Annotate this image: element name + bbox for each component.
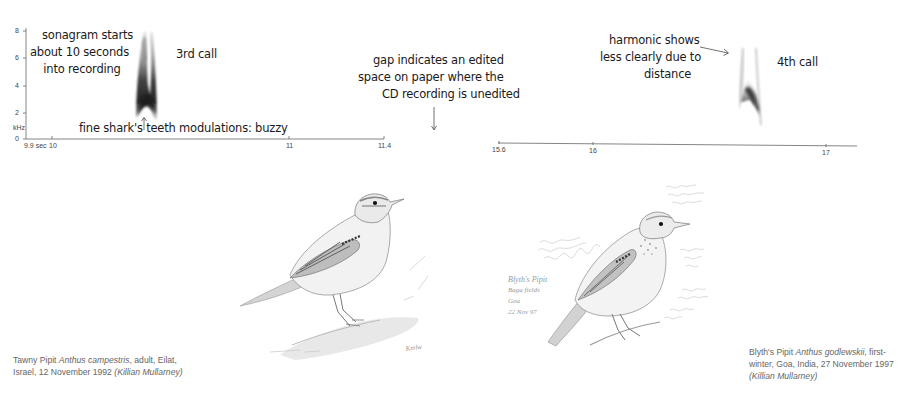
latin-name: Anthus godlewskii xyxy=(796,347,865,357)
illustrator-credit: (Killian Mullarney) xyxy=(749,371,817,381)
caption-line-3: (Killian Mullarney) xyxy=(749,370,906,382)
tawny-pipit-caption: Tawny Pipit Anthus campestris, adult, Ei… xyxy=(13,354,213,378)
illustrator-credit: (Killian Mullarney) xyxy=(114,367,182,377)
caption-line-2: winter, Goa, India, 27 November 1997 xyxy=(749,358,906,370)
latin-name: Anthus campestris xyxy=(59,355,130,365)
blyths-pipit-caption: Blyth's Pipit Anthus godlewskii, first- … xyxy=(749,346,906,382)
caption-line-1: Tawny Pipit Anthus campestris, adult, Ei… xyxy=(13,354,213,366)
caption-line-1: Blyth's Pipit Anthus godlewskii, first- xyxy=(749,346,906,358)
caption-line-2: Israel, 12 November 1992 (Killian Mullar… xyxy=(13,366,213,378)
